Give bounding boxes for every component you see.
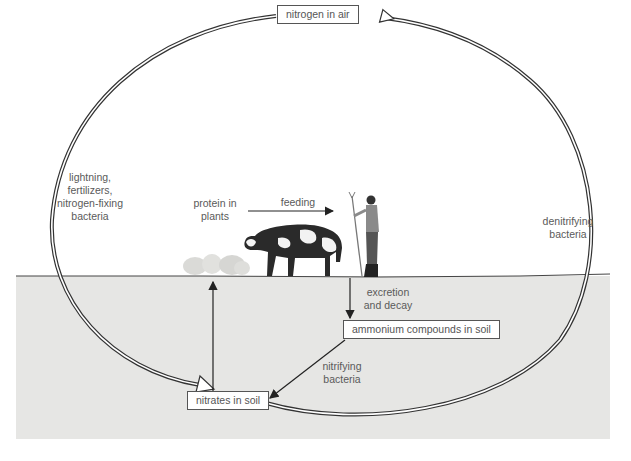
nitrates-in-soil-box: nitrates in soil xyxy=(187,391,269,410)
farmer-illustration xyxy=(349,192,379,277)
denitrifying-label: denitrifying bacteria xyxy=(528,215,608,241)
excretion-decay-label: excretion and decay xyxy=(356,286,420,312)
cow-illustration xyxy=(244,224,342,276)
protein-in-plants-label: protein in plants xyxy=(186,197,244,223)
fixation-label: lightning, fertilizers, nitrogen-fixing … xyxy=(40,171,140,223)
denitrification-arrowhead-icon xyxy=(380,10,396,26)
nitrogen-in-air-box: nitrogen in air xyxy=(277,5,359,24)
plants-illustration xyxy=(183,254,250,275)
fixation-arrowhead-icon xyxy=(196,376,214,392)
feeding-label: feeding xyxy=(268,196,328,209)
ammonium-compounds-box: ammonium compounds in soil xyxy=(343,320,500,339)
nitrifying-bacteria-label: nitrifying bacteria xyxy=(310,360,374,386)
nitrogen-cycle-diagram: nitrogen in air ammonium compounds in so… xyxy=(0,0,631,461)
